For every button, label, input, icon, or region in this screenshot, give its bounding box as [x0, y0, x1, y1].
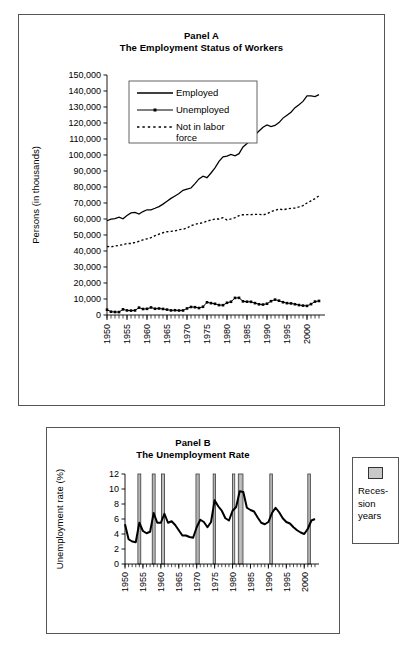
svg-text:1985: 1985	[246, 572, 256, 592]
svg-text:130,000: 130,000	[68, 102, 101, 112]
svg-text:20,000: 20,000	[73, 278, 101, 288]
svg-text:1995: 1995	[282, 324, 292, 344]
svg-text:150,000: 150,000	[68, 70, 101, 80]
panel-b-title-line2: The Unemployment Rate	[47, 449, 339, 461]
svg-text:100,000: 100,000	[68, 150, 101, 160]
svg-text:1955: 1955	[122, 324, 132, 344]
svg-text:6: 6	[114, 514, 119, 524]
svg-text:Employed: Employed	[176, 87, 218, 98]
svg-text:140,000: 140,000	[68, 86, 101, 96]
svg-text:1955: 1955	[138, 572, 148, 592]
panel-b-title-line1: Panel B	[47, 437, 339, 449]
svg-text:10: 10	[109, 484, 119, 494]
svg-text:1975: 1975	[202, 324, 212, 344]
recession-legend-line3: years	[358, 510, 398, 523]
svg-text:8: 8	[114, 499, 119, 509]
panel-a-title: Panel A The Employment Status of Workers	[19, 30, 384, 53]
panel-a-container: Panel A The Employment Status of Workers…	[18, 14, 385, 406]
svg-text:1970: 1970	[182, 324, 192, 344]
svg-text:0: 0	[96, 310, 101, 320]
svg-text:1975: 1975	[210, 572, 220, 592]
panel-a-chart: 010,00020,00030,00040,00050,00060,00070,…	[19, 53, 384, 405]
svg-text:2000: 2000	[300, 572, 310, 592]
svg-text:1980: 1980	[228, 572, 238, 592]
svg-text:1990: 1990	[262, 324, 272, 344]
svg-text:30,000: 30,000	[73, 262, 101, 272]
svg-text:1995: 1995	[282, 572, 292, 592]
svg-text:1950: 1950	[102, 324, 112, 344]
svg-text:2000: 2000	[302, 324, 312, 344]
recession-legend-line2: sion	[358, 498, 398, 511]
svg-text:50,000: 50,000	[73, 230, 101, 240]
panel-a-title-line2: The Employment Status of Workers	[19, 42, 384, 54]
panel-b-chart: 0246810121950195519601965197019751980198…	[47, 460, 339, 626]
recession-swatch-icon	[368, 467, 383, 479]
svg-text:10,000: 10,000	[73, 294, 101, 304]
svg-text:2: 2	[114, 544, 119, 554]
svg-text:70,000: 70,000	[73, 198, 101, 208]
svg-text:Persons (in thousands): Persons (in thousands)	[30, 146, 41, 244]
svg-text:1960: 1960	[142, 324, 152, 344]
svg-text:90,000: 90,000	[73, 166, 101, 176]
recession-legend-label: Reces- sion years	[353, 485, 398, 523]
svg-text:1990: 1990	[264, 572, 274, 592]
svg-text:4: 4	[114, 529, 119, 539]
svg-text:1965: 1965	[162, 324, 172, 344]
panel-b-title: Panel B The Unemployment Rate	[47, 437, 339, 460]
svg-text:1950: 1950	[120, 572, 130, 592]
panel-b-container: Panel B The Unemployment Rate 0246810121…	[46, 427, 340, 634]
panel-a-title-line1: Panel A	[19, 30, 384, 42]
svg-text:80,000: 80,000	[73, 182, 101, 192]
svg-text:60,000: 60,000	[73, 214, 101, 224]
svg-text:120,000: 120,000	[68, 118, 101, 128]
svg-text:1960: 1960	[156, 572, 166, 592]
recession-legend-line1: Reces-	[358, 485, 398, 498]
recession-legend-box: Reces- sion years	[352, 457, 399, 544]
svg-text:1965: 1965	[174, 572, 184, 592]
svg-text:Unemployment rate (%): Unemployment rate (%)	[54, 469, 65, 569]
svg-text:Unemployed: Unemployed	[176, 104, 229, 115]
svg-text:0: 0	[114, 559, 119, 569]
svg-text:12: 12	[109, 469, 119, 479]
svg-text:110,000: 110,000	[69, 134, 101, 144]
svg-text:40,000: 40,000	[73, 246, 101, 256]
svg-text:1980: 1980	[222, 324, 232, 344]
svg-text:force: force	[176, 132, 197, 143]
svg-text:1985: 1985	[242, 324, 252, 344]
svg-text:1970: 1970	[192, 572, 202, 592]
svg-text:Not in labor: Not in labor	[176, 121, 225, 132]
